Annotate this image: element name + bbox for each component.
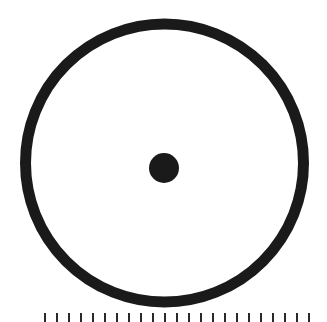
- glyph-fragment: [140, 313, 142, 322]
- glyph-fragment: [296, 313, 298, 322]
- diagram-canvas: [0, 0, 327, 322]
- glyph-fragment: [236, 313, 238, 322]
- circle-diagram: [0, 0, 327, 322]
- glyph-fragment: [176, 313, 178, 322]
- glyph-fragment: [104, 313, 106, 322]
- glyph-fragment: [284, 313, 286, 322]
- glyph-fragment: [248, 313, 250, 322]
- glyph-fragment: [164, 313, 166, 322]
- caption-ascender-tops: [44, 313, 320, 322]
- cropped-caption: [0, 313, 327, 322]
- glyph-fragment: [68, 313, 70, 322]
- glyph-fragment: [44, 313, 46, 322]
- glyph-fragment: [212, 313, 214, 322]
- glyph-fragment: [56, 313, 58, 322]
- glyph-fragment: [116, 313, 118, 322]
- glyph-fragment: [200, 313, 202, 322]
- glyph-fragment: [224, 313, 226, 322]
- glyph-fragment: [308, 313, 310, 322]
- glyph-fragment: [260, 313, 262, 322]
- center-point: [149, 153, 179, 183]
- glyph-fragment: [188, 313, 190, 322]
- glyph-fragment: [80, 313, 82, 322]
- glyph-fragment: [152, 313, 154, 322]
- glyph-fragment: [92, 313, 94, 322]
- glyph-fragment: [272, 313, 274, 322]
- glyph-fragment: [128, 313, 130, 322]
